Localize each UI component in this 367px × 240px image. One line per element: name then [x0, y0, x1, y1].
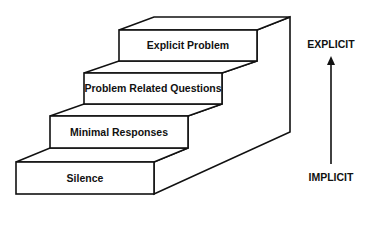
arrow-up-icon	[327, 56, 335, 65]
step-label-problem-related-questions: Problem Related Questions	[84, 82, 222, 94]
step-label-explicit-problem: Explicit Problem	[119, 39, 257, 51]
axis-label-explicit: EXPLICIT	[296, 38, 366, 50]
axis-label-implicit: IMPLICIT	[296, 171, 366, 183]
step-label-minimal-responses: Minimal Responses	[50, 126, 188, 138]
step-label-silence: Silence	[16, 172, 154, 184]
